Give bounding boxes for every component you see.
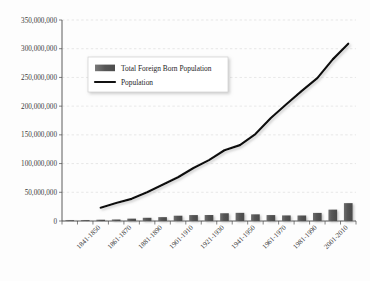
x-tick-label: 1901-1910 bbox=[168, 223, 195, 250]
bar bbox=[298, 215, 307, 221]
x-tick-label: 1861-1870 bbox=[106, 223, 133, 250]
bar bbox=[205, 215, 214, 221]
y-axis bbox=[59, 20, 62, 221]
chart-canvas: 050,000,000100,000,000150,000,000200,000… bbox=[0, 0, 370, 281]
x-tick-labels: 1841-18501861-18701881-18901901-19101921… bbox=[75, 223, 350, 250]
bar bbox=[158, 217, 167, 221]
chart-container: 050,000,000100,000,000150,000,000200,000… bbox=[0, 0, 370, 281]
y-tick-label: 0 bbox=[53, 218, 57, 226]
x-tick-label: 2001-2010 bbox=[323, 223, 350, 250]
bar bbox=[313, 213, 322, 221]
y-tick-labels: 050,000,000100,000,000150,000,000200,000… bbox=[21, 17, 57, 226]
bar bbox=[174, 216, 183, 221]
legend-swatch-bar bbox=[95, 65, 115, 72]
bar bbox=[96, 220, 105, 221]
y-tick-label: 50,000,000 bbox=[25, 189, 58, 197]
bar bbox=[236, 213, 245, 221]
bar bbox=[328, 210, 337, 221]
legend-box bbox=[88, 57, 228, 92]
x-tick-label: 1921-1930 bbox=[199, 223, 226, 250]
bar bbox=[267, 215, 276, 221]
x-tick-label: 1941-1950 bbox=[230, 223, 257, 250]
bar bbox=[189, 215, 198, 221]
legend-label: Total Foreign Born Population bbox=[121, 64, 212, 73]
chart-legend[interactable]: Total Foreign Born PopulationPopulation bbox=[88, 57, 228, 92]
y-tick-label: 250,000,000 bbox=[21, 74, 57, 82]
bar bbox=[282, 215, 291, 221]
y-tick-label: 300,000,000 bbox=[21, 45, 57, 53]
x-tick-label: 1841-1850 bbox=[75, 223, 102, 250]
legend-label: Population bbox=[121, 78, 153, 87]
y-tick-label: 200,000,000 bbox=[21, 103, 57, 111]
bar bbox=[127, 219, 136, 221]
y-tick-label: 150,000,000 bbox=[21, 131, 57, 139]
bar bbox=[65, 220, 74, 221]
x-tick-label: 1981-1990 bbox=[292, 223, 319, 250]
x-tick-label: 1881-1890 bbox=[137, 223, 164, 250]
y-tick-label: 350,000,000 bbox=[21, 17, 57, 25]
bar bbox=[220, 213, 229, 221]
bar bbox=[251, 214, 260, 221]
grid-lines bbox=[62, 20, 356, 221]
bar bbox=[344, 203, 353, 221]
x-tick-label: 1961-1970 bbox=[261, 223, 288, 250]
bar bbox=[112, 220, 121, 221]
y-tick-label: 100,000,000 bbox=[21, 160, 57, 168]
bar bbox=[81, 220, 90, 221]
bar bbox=[143, 218, 152, 221]
